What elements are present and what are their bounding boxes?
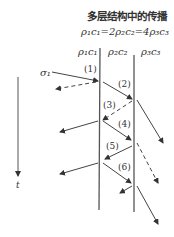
wave-label-6: (6) [118,162,131,172]
time-label: t [16,180,20,190]
reflected-wave-3 [60,163,98,174]
wave-label-4: (4) [118,119,131,129]
wave-label-3: (3) [103,100,116,110]
diagram-title: 多层结构中的传播 [87,10,168,22]
reflected-wave-1 [56,82,96,89]
interface-1 [99,48,100,210]
layer-3-label: ρ₃c₃ [140,46,161,57]
multilayer-propagation-diagram: 多层结构中的传播 ρ₁c₁=2ρ₂c₂=4ρ₃c₃ ρ₁c₁ ρ₂c₂ ρ₃c₃… [0,0,174,237]
layer-1-label: ρ₁c₁ [77,46,98,57]
reflected-wave-4 [120,186,132,193]
incident-label: σ₁ [40,67,51,78]
impedance-relation: ρ₁c₁=2ρ₂c₂=4ρ₃c₃ [80,26,169,37]
wave-label-5: (5) [106,141,119,151]
transmitted-wave-3 [137,186,158,224]
transmitted-wave-1 [137,100,163,143]
transmitted-wave-2 [137,143,158,183]
wave-label-2: (2) [118,79,131,89]
layer-2-label: ρ₂c₂ [107,46,128,57]
wave-label-1: (1) [84,64,97,74]
reflected-wave-2 [60,121,98,132]
